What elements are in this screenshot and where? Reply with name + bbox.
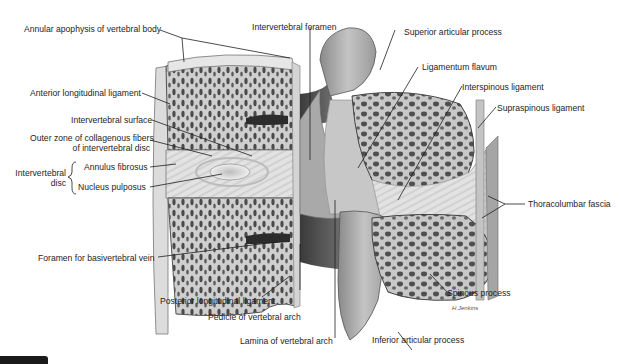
label-interspinous-ligament: Interspinous ligament <box>462 82 544 92</box>
label-ligamentum-flavum: Ligamentum flavum <box>422 62 497 72</box>
label-inferior-articular-process: Inferior articular process <box>372 335 464 345</box>
label-posterior-longitudinal-ligament: Posterior longitudinal ligament <box>160 296 275 306</box>
label-intervertebral-disc: Intervertebral disc <box>8 168 66 188</box>
label-intervertebral-foramen: Intervertebral foramen <box>252 22 337 32</box>
figure-number-tab <box>0 356 48 364</box>
label-spinous-process: Spinous process <box>447 288 511 298</box>
label-intervertebral-surface: Intervertebral surface <box>71 115 152 125</box>
label-foramen-basivertebral-vein: Foramen for basivertebral vein <box>38 253 155 263</box>
thoracolumbar-fascia-shape <box>486 136 498 300</box>
label-outer-zone-line1: Outer zone of collagenous fibers <box>30 133 150 143</box>
label-lamina-vertebral-arch: Lamina of vertebral arch <box>240 336 333 346</box>
label-nucleus-pulposus: Nucleus pulposus <box>78 182 146 192</box>
anatomy-figure: H.Jenkins Annular apophysis of vertebral… <box>0 0 620 364</box>
label-superior-articular-process: Superior articular process <box>404 27 502 37</box>
label-anterior-longitudinal-ligament: Anterior longitudinal ligament <box>30 88 141 98</box>
anterior-longitudinal-ligament-shape <box>153 66 168 334</box>
label-intervertebral-disc-line2: disc <box>8 178 66 188</box>
label-thoracolumbar-fascia: Thoracolumbar fascia <box>528 199 611 209</box>
label-outer-zone: Outer zone of collagenous fibers of inte… <box>30 133 150 153</box>
label-annulus-fibrosus: Annulus fibrosus <box>84 162 148 172</box>
superior-articular-process-shape <box>320 28 376 96</box>
label-outer-zone-line2: of intervertebral disc <box>30 143 150 153</box>
label-supraspinous-ligament: Supraspinous ligament <box>497 103 584 113</box>
artist-signature: H.Jenkins <box>452 305 478 311</box>
label-pedicle-vertebral-arch: Pedicle of vertebral arch <box>208 312 301 322</box>
nucleus-pulposus <box>210 164 250 180</box>
upper-spinous-process <box>352 92 474 192</box>
disc-bracket <box>68 162 76 194</box>
label-intervertebral-disc-line1: Intervertebral <box>8 168 66 178</box>
upper-vertebral-body <box>166 59 296 150</box>
supraspinous-ligament-shape <box>476 100 484 300</box>
label-annular-apophysis: Annular apophysis of vertebral body <box>24 24 161 34</box>
